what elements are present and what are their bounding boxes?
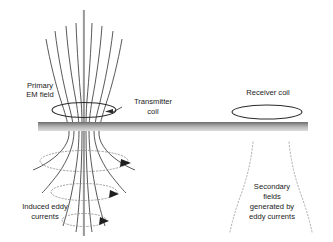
label-transmitter-coil-line-1: Transmitter xyxy=(134,97,173,106)
label-secondary-fields-line-1: Secondary xyxy=(254,182,291,191)
label-secondary-fields-line-4: eddy currents xyxy=(249,212,295,221)
label-receiver-coil-line-1: Receiver coil xyxy=(246,88,290,97)
em-induction-diagram: Primary EM field Transmitter coil Receiv… xyxy=(0,0,333,242)
label-induced-eddy-currents-line-1: Induced eddy xyxy=(22,202,68,211)
label-primary-em-field: Primary EM field xyxy=(26,81,53,99)
label-secondary-fields-line-2: fields xyxy=(263,192,281,201)
label-receiver-coil: Receiver coil xyxy=(246,88,290,97)
label-secondary-fields-line-3: generated by xyxy=(250,202,295,211)
label-secondary-fields: Secondary fields generated by eddy curre… xyxy=(249,182,295,221)
label-induced-eddy-currents-line-2: currents xyxy=(31,212,59,221)
label-primary-em-field-line-2: EM field xyxy=(26,90,53,99)
label-transmitter-coil-line-2: coil xyxy=(147,107,159,116)
ground-surface xyxy=(38,122,308,131)
label-primary-em-field-line-1: Primary xyxy=(27,81,53,90)
